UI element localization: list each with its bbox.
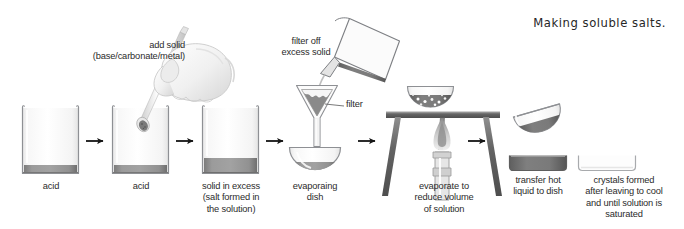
label-acid-1: acid xyxy=(20,181,82,192)
evaporating-dish-under-funnel xyxy=(290,148,341,171)
label-crystals-formed: crystals formed after leaving to cool an… xyxy=(568,175,680,221)
label-solid-in-excess: solid in excess (salt formed in the solu… xyxy=(182,181,280,215)
beaker-acid-1 xyxy=(22,106,79,174)
label-evaporate-to-reduce-volume: evaporate to reduce volume of solution xyxy=(397,181,491,215)
diagram-canvas: Making soluble salts. xyxy=(0,0,684,229)
page-title: Making soluble salts. xyxy=(533,16,666,30)
label-transfer-hot-liquid: transfer hot liquid to dish xyxy=(500,175,576,198)
evaporating-dish-heated xyxy=(408,87,454,108)
crystallising-dish-crystals xyxy=(579,156,636,171)
label-add-solid: add solid (base/carbonate/metal) xyxy=(0,40,185,63)
label-filter: filter xyxy=(346,99,386,110)
evaporating-dish-pouring xyxy=(513,104,566,138)
label-filter-off-excess-solid: filter off excess solid xyxy=(268,36,344,59)
filter-leader-line xyxy=(325,104,344,106)
label-evaporating-dish: evaporaing dish xyxy=(281,181,349,204)
beaker-acid-2 xyxy=(112,106,169,174)
label-acid-2: acid xyxy=(110,181,172,192)
filter-funnel xyxy=(297,86,338,147)
beaker-solid-in-excess xyxy=(202,106,259,174)
crystallising-dish-filled xyxy=(510,156,567,171)
